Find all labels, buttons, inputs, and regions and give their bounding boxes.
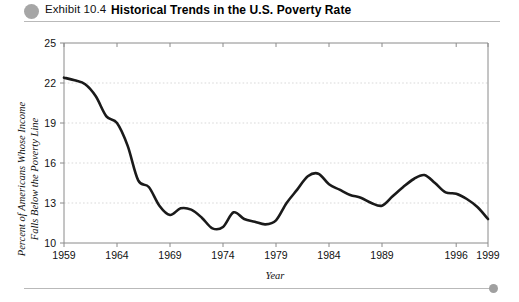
x-axis-tick-label: 1969	[158, 249, 182, 261]
x-axis-tick-label: 1996	[445, 249, 469, 261]
y-axis-tick-marks	[60, 43, 64, 243]
chart-canvas: 252219161310 195919641969197419791984198…	[0, 24, 519, 288]
x-axis-tick-label: 1979	[264, 249, 288, 261]
x-axis-tick-label: 1964	[105, 249, 129, 261]
poverty-rate-series-line	[64, 78, 488, 230]
x-axis-tick-label: 1984	[317, 249, 341, 261]
x-axis-title: Year	[266, 270, 286, 281]
exhibit-number-label: Exhibit 10.4	[45, 3, 106, 15]
x-axis-tick-label: 1959	[52, 249, 76, 261]
y-axis-tick-label: 19	[44, 117, 56, 129]
y-axis-title-line-2: Falls Below the Poverty Line	[29, 117, 40, 241]
y-axis-title-line-1: Percent of Americans Whose Income	[16, 101, 27, 257]
footer-divider	[24, 288, 492, 289]
y-axis-tick-label: 22	[44, 77, 56, 89]
exhibit-header: Exhibit 10.4 Historical Trends in the U.…	[0, 0, 519, 24]
y-axis-tick-label: 25	[44, 37, 56, 49]
y-axis-tick-label: 13	[44, 197, 56, 209]
y-axis-tick-label: 16	[44, 157, 56, 169]
header-divider	[24, 21, 500, 22]
y-axis-tick-label: 10	[44, 237, 56, 249]
x-axis-tick-label: 1989	[370, 249, 394, 261]
y-axis-tick-labels: 252219161310	[44, 37, 56, 249]
exhibit-bullet-circle-icon	[24, 4, 39, 19]
x-axis-tick-label: 1999	[476, 249, 500, 261]
poverty-rate-line-chart: 252219161310 195919641969197419791984198…	[0, 24, 519, 288]
footer-bullet-circle-icon	[489, 284, 498, 293]
x-axis-tick-label: 1974	[211, 249, 235, 261]
x-axis-tick-labels: 195919641969197419791984198919961999	[52, 249, 500, 261]
exhibit-title: Historical Trends in the U.S. Poverty Ra…	[111, 3, 351, 17]
